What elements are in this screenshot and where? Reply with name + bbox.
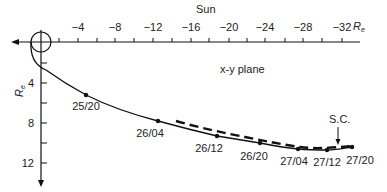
x-tick-label: −20 [220,22,239,33]
sc-arrow-icon [336,127,341,145]
y-tick-label: 8 [14,118,34,129]
y-unit-subscript: e [19,85,26,89]
y-axis-ticks [41,63,47,163]
sun-label: Sun [196,4,216,15]
x-tick-label: −8 [109,22,122,33]
x-tick-label: −16 [182,22,201,33]
point-label: 27/12 [313,157,341,168]
y-axis [38,30,47,187]
orbit-diagram: Sun −4 −8 −12 −16 −20 −24 −28 −32 Re x-y… [0,0,387,192]
point-label: 27/04 [280,156,308,167]
x-tick-label: −28 [294,22,313,33]
point-label: 26/04 [136,128,164,139]
point-label: 27/20 [346,155,374,166]
x-axis [11,38,360,45]
point-label: 26/12 [195,143,223,154]
point-label: 25/20 [72,101,100,112]
y-axis-unit-label: Re [14,85,26,97]
point-label: 26/20 [240,151,268,162]
x-axis-arrow-icon [11,39,19,45]
y-axis-arrow-icon [38,180,44,187]
x-tick-label: −12 [144,22,163,33]
x-axis-unit-label: Re [353,21,365,33]
x-tick-label: −32 [333,22,352,33]
y-unit-main: R [13,89,25,97]
x-tick-label: −4 [72,22,85,33]
spacecraft-label: S.C. [329,114,350,125]
trajectory-curve [31,42,352,150]
x-unit-main: R [353,20,361,32]
x-tick-label: −24 [256,22,275,33]
y-tick-label: 12 [14,158,34,169]
plane-label: x-y plane [220,64,265,75]
x-unit-subscript: e [361,26,365,33]
